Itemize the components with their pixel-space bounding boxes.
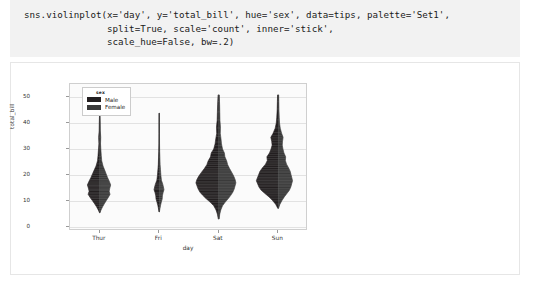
violin-plot-figure: total_bill 01020304050 sex MaleFemale Th… bbox=[21, 67, 321, 267]
legend-entries: MaleFemale bbox=[87, 97, 125, 111]
y-axis-label: total_bill bbox=[9, 103, 15, 129]
legend-swatch bbox=[87, 97, 101, 102]
code-line-1: sns.violinplot(x='day', y='total_bill', … bbox=[24, 8, 520, 22]
violin-half-male bbox=[154, 113, 159, 212]
x-tick-mark bbox=[158, 230, 159, 233]
legend-entry: Male bbox=[87, 97, 125, 103]
legend-label: Male bbox=[105, 97, 118, 103]
y-tick-label: 0 bbox=[10, 223, 30, 229]
x-tick-label: Sun bbox=[257, 235, 297, 241]
plot-area: sex MaleFemale bbox=[69, 83, 307, 230]
x-tick-mark bbox=[218, 230, 219, 233]
violin-half-female bbox=[159, 113, 164, 212]
legend-swatch bbox=[87, 105, 101, 110]
y-tick-label: 20 bbox=[10, 171, 30, 177]
code-line-3: scale_hue=False, bw=.2) bbox=[24, 35, 520, 49]
legend-entry: Female bbox=[87, 104, 125, 110]
y-tick-label: 10 bbox=[10, 197, 30, 203]
output-panel: total_bill 01020304050 sex MaleFemale Th… bbox=[10, 62, 520, 275]
violin-half-female bbox=[278, 95, 292, 208]
x-tick-mark bbox=[99, 230, 100, 233]
y-tick-label: 50 bbox=[10, 93, 30, 99]
code-cell: sns.violinplot(x='day', y='total_bill', … bbox=[10, 0, 520, 57]
legend-label: Female bbox=[105, 104, 125, 110]
legend-title: sex bbox=[96, 90, 125, 95]
x-tick-label: Fri bbox=[138, 235, 178, 241]
legend: sex MaleFemale bbox=[82, 87, 131, 116]
y-tick-label: 40 bbox=[10, 119, 30, 125]
x-tick-label: Sat bbox=[198, 235, 238, 241]
violin-half-male bbox=[256, 95, 278, 208]
x-tick-label: Thur bbox=[79, 235, 119, 241]
y-tick-label: 30 bbox=[10, 145, 30, 151]
x-tick-mark bbox=[277, 230, 278, 233]
x-axis-label: day bbox=[183, 245, 194, 251]
code-line-2: split=True, scale='count', inner='stick'… bbox=[24, 22, 520, 36]
